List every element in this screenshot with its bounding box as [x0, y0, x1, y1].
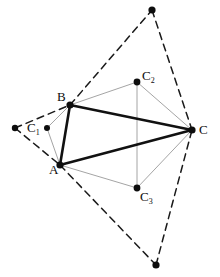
dashed-Pleft-B — [15, 105, 70, 128]
vertex-label-c: C — [199, 123, 208, 136]
vertex-label-b: B — [57, 90, 66, 103]
side-BC — [70, 105, 192, 130]
vertex-label-c2: C2 — [142, 69, 155, 82]
vertex-label-a: A — [49, 163, 58, 176]
vertex-label-c3: C3 — [140, 190, 153, 203]
vertex-dot-p_top — [148, 6, 155, 13]
dashed-A-Pbottom — [60, 165, 156, 265]
dashed-Pbottom-C — [156, 130, 192, 265]
side-CA — [60, 130, 192, 165]
vertex-dot-b — [66, 101, 73, 108]
geometry-figure: A B C C1 C2 C3 — [0, 0, 220, 277]
vertex-dot-c — [188, 126, 195, 133]
vertex-dot-c2 — [134, 79, 141, 86]
vertex-dot-p_left — [12, 125, 18, 131]
vertex-label-c1: C1 — [27, 121, 40, 134]
geometry-canvas — [0, 0, 220, 277]
vertex-dot-p_bottom — [152, 261, 159, 268]
solid-lines-layer — [60, 105, 192, 165]
vertex-dot-c1 — [44, 125, 50, 131]
